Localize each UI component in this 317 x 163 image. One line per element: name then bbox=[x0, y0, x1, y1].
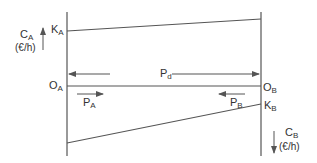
ob-label: OB bbox=[263, 82, 277, 96]
cb-unit: (€/h) bbox=[279, 141, 300, 152]
pa-label: PA bbox=[83, 97, 96, 111]
cb-label: CB bbox=[285, 127, 298, 141]
pd-label: Pd bbox=[160, 68, 172, 82]
pb-label: PB bbox=[230, 97, 243, 111]
kb-label: KB bbox=[264, 100, 277, 114]
oa-label: OA bbox=[49, 80, 63, 94]
ka-line bbox=[67, 19, 261, 31]
ka-label: KA bbox=[51, 24, 64, 38]
ca-unit: (€/h) bbox=[15, 42, 36, 53]
ca-label: CA bbox=[20, 29, 33, 43]
